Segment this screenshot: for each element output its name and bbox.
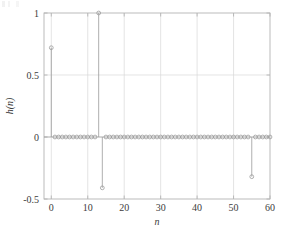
figure-canvas: 0102030405060-0.500.51nh(n) — [0, 0, 285, 231]
x-tick-label: 60 — [265, 202, 275, 213]
y-axis-title: h(n) — [4, 97, 16, 114]
plot-frame — [44, 13, 270, 199]
x-tick-label: 20 — [119, 202, 129, 213]
x-tick-label: 30 — [156, 202, 166, 213]
y-tick-label: 1 — [34, 8, 39, 19]
stem-plot: 0102030405060-0.500.51nh(n) — [0, 0, 285, 231]
x-tick-label: 40 — [192, 202, 202, 213]
x-axis-title: n — [155, 216, 160, 227]
x-tick-label: 10 — [83, 202, 93, 213]
y-tick-label: 0 — [34, 132, 39, 143]
x-tick-label: 0 — [49, 202, 54, 213]
y-tick-label: 0.5 — [27, 70, 40, 81]
x-tick-label: 50 — [229, 202, 239, 213]
y-tick-label: -0.5 — [23, 194, 39, 205]
